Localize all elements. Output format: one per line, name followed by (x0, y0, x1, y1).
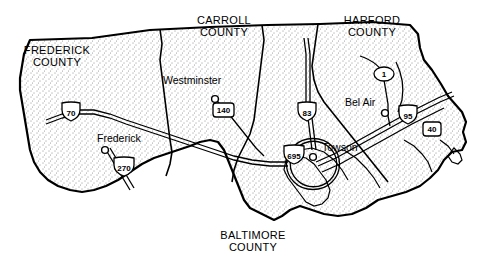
city-label-bel-air: Bel Air (345, 96, 375, 108)
route-shield-i70: 70 (62, 109, 80, 118)
county-label-carroll-line1: CARROLL (181, 14, 267, 26)
county-label-carroll: CARROLL COUNTY (181, 14, 267, 38)
county-label-baltimore-line1: BALTIMORE (210, 229, 296, 241)
county-label-frederick-line2: COUNTY (14, 56, 100, 68)
city-label-frederick: Frederick (97, 132, 141, 144)
route-shield-md1: 1 (374, 70, 394, 79)
county-label-harford-line2: COUNTY (329, 26, 415, 38)
county-label-harford-line1: HARFORD (329, 14, 415, 26)
map-container: FREDERICK COUNTY CARROLL COUNTY HARFORD … (0, 0, 483, 266)
route-shield-i95: 95 (399, 112, 417, 121)
route-shield-i83: 83 (298, 109, 316, 118)
county-label-harford: HARFORD COUNTY (329, 14, 415, 38)
route-shield-i695: 695 (284, 152, 304, 161)
route-shield-i270: 270 (114, 164, 134, 173)
map-svg (0, 0, 483, 266)
county-label-baltimore: BALTIMORE COUNTY (210, 229, 296, 253)
county-label-frederick-line1: FREDERICK (14, 44, 100, 56)
route-shield-us140: 140 (213, 106, 234, 115)
city-label-westminster: Westminster (163, 74, 221, 86)
county-label-carroll-line2: COUNTY (181, 26, 267, 38)
county-label-frederick: FREDERICK COUNTY (14, 44, 100, 68)
city-label-towson: Towson (322, 141, 358, 153)
county-label-baltimore-line2: COUNTY (210, 241, 296, 253)
route-shield-us40: 40 (423, 125, 441, 134)
